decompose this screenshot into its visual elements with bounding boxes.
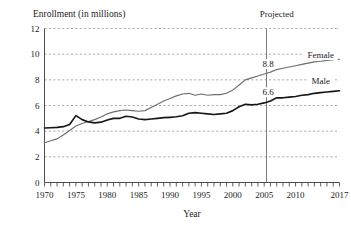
gridlines-group [45, 29, 340, 157]
x-tick-label-2005: 2005 [255, 190, 274, 200]
y-tick-label-0: 0 [35, 178, 40, 188]
x-axis-title: Year [183, 209, 201, 219]
x-tick-label-1975: 1975 [67, 190, 86, 200]
y-tick-labels-group: 024681012 [31, 24, 41, 188]
male-value-label: 6.6 [262, 87, 274, 97]
y-tick-label-4: 4 [35, 126, 40, 136]
y-axis-title: Enrollment (in millions) [33, 9, 125, 20]
female-value-label: 8.8 [262, 59, 274, 69]
projected-label: Projected [260, 9, 294, 19]
male-series-label: Male [311, 76, 330, 86]
y-tick-label-8: 8 [35, 75, 40, 85]
x-tick-label-2010: 2010 [287, 190, 306, 200]
x-tick-label-1970: 1970 [36, 190, 55, 200]
x-tick-label-1990: 1990 [161, 190, 180, 200]
enrollment-line-chart: Enrollment (in millions) 024681012 19701… [0, 0, 351, 233]
y-tick-label-2: 2 [35, 152, 40, 162]
annotations-group: Projected8.86.6FemaleMale [257, 9, 338, 97]
y-tick-label-12: 12 [31, 24, 40, 34]
male-series-line [45, 91, 340, 128]
x-tick-label-1980: 1980 [98, 190, 117, 200]
x-tick-label-1995: 1995 [192, 190, 211, 200]
y-tick-label-10: 10 [31, 49, 41, 59]
x-tick-labels-group: 1970197519801985199019952000200520102017 [36, 190, 350, 200]
female-series-label: Female [307, 50, 334, 60]
female-series-line [45, 59, 340, 142]
x-tick-label-2017: 2017 [331, 190, 350, 200]
chart-canvas: Enrollment (in millions) 024681012 19701… [0, 0, 351, 233]
y-tick-label-6: 6 [35, 101, 40, 111]
x-tick-label-1985: 1985 [130, 190, 149, 200]
x-tick-label-2000: 2000 [224, 190, 243, 200]
x-minor-ticks-group [45, 183, 340, 187]
